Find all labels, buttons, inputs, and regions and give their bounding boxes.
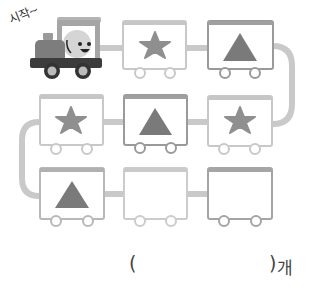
train-car-triangle <box>40 168 104 226</box>
train-car-triangle <box>124 95 187 153</box>
answer-blank[interactable] <box>142 252 266 276</box>
answer-open-paren: ( <box>129 252 136 274</box>
engine-icon <box>30 17 102 79</box>
answer-close-paren: ) <box>269 252 276 274</box>
train-car-empty <box>124 168 187 226</box>
answer-unit: 개 <box>277 254 293 279</box>
train-car-star <box>40 95 103 154</box>
train-car-triangle <box>208 21 273 78</box>
worksheet: 시작~ ( ) 개 <box>0 0 312 297</box>
train-car-star <box>208 96 272 154</box>
train-car-star <box>123 21 186 78</box>
train-car-empty <box>208 168 272 226</box>
